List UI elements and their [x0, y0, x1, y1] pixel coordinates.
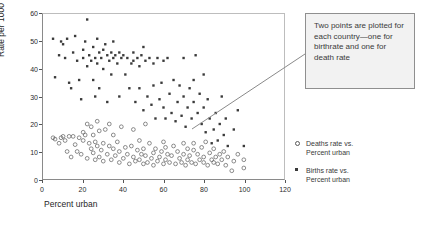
data-point [164, 145, 168, 149]
data-point [128, 87, 130, 89]
data-point [131, 128, 135, 132]
x-tick-mark [123, 180, 124, 183]
data-point [76, 60, 78, 62]
data-point [221, 95, 223, 97]
data-point [208, 151, 212, 155]
data-point [121, 156, 125, 160]
data-point [154, 147, 158, 151]
data-point [142, 147, 146, 151]
data-point [117, 150, 121, 154]
data-point [69, 155, 73, 159]
data-point [204, 131, 206, 133]
data-point [218, 152, 222, 156]
data-point [213, 128, 215, 130]
data-point [180, 115, 182, 117]
x-tick-mark [164, 180, 165, 183]
data-point [226, 155, 230, 159]
data-point [164, 117, 166, 119]
filled-square-marker-icon [295, 168, 298, 171]
data-point [223, 134, 225, 136]
data-point [75, 150, 79, 154]
data-points-layer [43, 14, 284, 179]
data-point [90, 60, 92, 62]
data-point [97, 155, 101, 159]
data-point [237, 109, 239, 111]
data-point [176, 150, 180, 154]
y-tick-label: 0 [20, 177, 38, 184]
data-point [106, 101, 108, 103]
data-point [209, 117, 211, 119]
data-point [111, 133, 115, 137]
x-tick-label: 100 [239, 186, 251, 193]
x-tick-label: 0 [40, 186, 44, 193]
legend-deaths-line-2: Percent urban [306, 148, 420, 157]
data-point [113, 154, 117, 158]
data-point [192, 141, 196, 145]
data-point [97, 129, 101, 133]
data-point [136, 148, 140, 152]
data-point [120, 57, 122, 59]
legend-births-line-1: Births rate vs. [306, 166, 420, 175]
data-point [150, 156, 154, 160]
data-point [227, 145, 229, 147]
data-point [64, 57, 66, 59]
data-point [216, 162, 220, 166]
data-point [148, 57, 150, 59]
x-tick-label: 60 [160, 186, 168, 193]
data-point [89, 147, 93, 151]
x-tick-mark [42, 180, 43, 183]
data-point [194, 162, 198, 166]
data-point [178, 84, 180, 86]
data-point [192, 101, 194, 103]
data-point [124, 73, 126, 75]
plot-area [42, 13, 285, 180]
data-point [166, 57, 168, 59]
data-point [142, 46, 144, 48]
data-point [170, 154, 174, 158]
data-point [79, 152, 83, 156]
data-point [166, 152, 170, 156]
data-point [184, 163, 188, 167]
legend-deaths-line-1: Deaths rate vs. [306, 139, 420, 148]
data-point [140, 54, 142, 56]
data-point [62, 43, 64, 45]
y-tick-label: 10 [20, 149, 38, 156]
legend-item-births[interactable]: Births rate vs. Percent urban [294, 166, 420, 184]
data-point [202, 106, 204, 108]
x-tick-label: 40 [119, 186, 127, 193]
data-point [198, 158, 202, 162]
data-point [86, 18, 88, 20]
data-point [188, 87, 190, 89]
data-point [112, 57, 114, 59]
data-point [158, 98, 160, 100]
data-point [190, 117, 192, 119]
data-point [126, 57, 128, 59]
data-point [196, 152, 200, 156]
data-point [220, 158, 224, 162]
data-point [122, 54, 124, 56]
data-point [196, 112, 198, 114]
data-point [164, 158, 168, 162]
data-point [101, 159, 105, 163]
callout-line-1: Two points are [314, 21, 366, 30]
data-point [114, 54, 116, 56]
data-point [93, 140, 97, 144]
data-point [160, 150, 164, 154]
data-point [138, 65, 140, 67]
scatter-plot-figure: Rate per 1000 Percent urban 010203040506… [0, 0, 426, 233]
x-axis-title: Percent urban [44, 199, 97, 209]
data-point [180, 161, 184, 165]
data-point [186, 158, 190, 162]
legend-item-deaths[interactable]: Deaths rate vs. Percent urban [294, 139, 420, 157]
data-point [57, 141, 61, 145]
data-point [152, 151, 156, 155]
data-point [188, 154, 192, 158]
data-point [194, 54, 196, 56]
data-point [182, 152, 186, 156]
data-point [172, 144, 176, 148]
callout-line-4: birthrate and one for [314, 42, 386, 51]
data-point [94, 95, 96, 97]
data-point [132, 51, 134, 53]
legend-births-line-2: Percent urban [306, 175, 420, 184]
data-point [217, 139, 219, 141]
